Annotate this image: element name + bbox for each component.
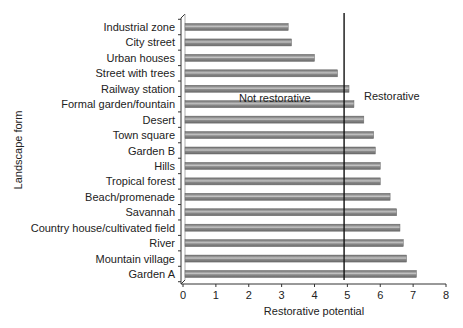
category-label: Railway station <box>101 83 175 95</box>
category-label: River <box>149 237 175 249</box>
bar <box>185 39 291 46</box>
y-axis-title: Landscape form <box>12 111 24 190</box>
category-label: Tropical forest <box>106 175 175 187</box>
category-label: Garden B <box>128 145 175 157</box>
bar <box>185 240 403 247</box>
category-label: Garden A <box>129 268 176 280</box>
restorative-label: Restorative <box>364 90 420 102</box>
bar <box>185 132 374 139</box>
category-label: Street with trees <box>96 67 176 79</box>
category-label: Country house/cultivated field <box>31 222 175 234</box>
x-tick-label: 0 <box>180 289 186 301</box>
bar <box>185 209 397 216</box>
bar <box>185 255 407 262</box>
bar <box>185 271 416 278</box>
x-tick-label: 5 <box>344 289 350 301</box>
bar <box>185 116 364 123</box>
x-tick-label: 3 <box>279 289 285 301</box>
x-tick-label: 6 <box>377 289 383 301</box>
category-label: Town square <box>113 129 175 141</box>
y-axis: Industrial zoneCity streetUrban housesSt… <box>31 14 185 284</box>
not-restorative-label: Not restorative <box>239 92 311 104</box>
bars <box>185 24 416 278</box>
category-label: City street <box>125 36 175 48</box>
x-axis-title: Restorative potential <box>264 305 364 317</box>
bar <box>185 24 288 31</box>
category-label: Mountain village <box>96 253 176 265</box>
category-label: Formal garden/fountain <box>61 98 175 110</box>
category-label: Beach/promenade <box>85 191 175 203</box>
bar <box>185 54 315 61</box>
category-label: Desert <box>143 114 175 126</box>
x-axis: 012345678 <box>180 280 449 301</box>
category-label: Savannah <box>125 206 175 218</box>
x-tick-label: 2 <box>246 289 252 301</box>
bar <box>185 70 338 77</box>
category-label: Urban houses <box>107 52 176 64</box>
x-tick-label: 8 <box>443 289 449 301</box>
x-tick-label: 7 <box>410 289 416 301</box>
x-tick-label: 1 <box>213 289 219 301</box>
category-label: Industrial zone <box>103 21 175 33</box>
category-label: Hills <box>154 160 175 172</box>
bar <box>185 162 380 169</box>
x-tick-label: 4 <box>311 289 317 301</box>
bar-chart: Industrial zoneCity streetUrban housesSt… <box>0 0 463 328</box>
bar <box>185 193 390 200</box>
bar <box>185 224 400 231</box>
bar <box>185 178 380 185</box>
bar <box>185 147 375 154</box>
